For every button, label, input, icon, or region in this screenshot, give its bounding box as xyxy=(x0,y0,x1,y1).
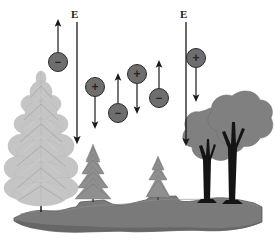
particle-4: + xyxy=(128,65,147,111)
particle-6-sign: + xyxy=(192,51,199,65)
deciduous-left-trunk xyxy=(199,139,216,202)
diagram-svg: − + − + − + xyxy=(0,0,275,249)
field-label-left: E xyxy=(71,9,78,20)
particle-2-sign: + xyxy=(91,80,98,94)
particle-3-sign: − xyxy=(115,107,121,119)
particle-4-sign: + xyxy=(133,67,140,81)
particle-1-sign: − xyxy=(55,56,61,68)
small-conifer-right xyxy=(146,156,170,200)
large-conifer-tree xyxy=(4,71,78,212)
particle-5: − xyxy=(150,64,169,108)
deciduous-right-trunk xyxy=(222,122,245,203)
small-conifer-left xyxy=(75,144,111,202)
particle-5-sign: − xyxy=(156,92,162,104)
particle-2: + xyxy=(86,78,105,126)
particle-3: − xyxy=(109,77,128,123)
diagram-canvas: − + − + − + xyxy=(0,0,275,249)
particle-6: + xyxy=(187,49,206,99)
particle-1: − xyxy=(49,23,68,72)
field-label-right: E xyxy=(180,9,187,20)
